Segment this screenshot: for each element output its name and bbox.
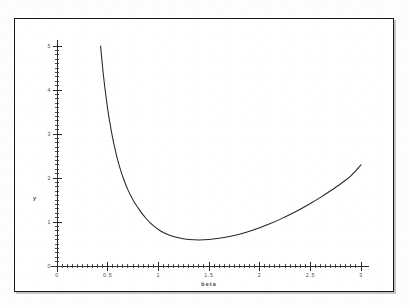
x-axis-ticks bbox=[57, 262, 361, 271]
plot-area: 00.511.522.53 012345 beta y bbox=[15, 19, 395, 293]
x-tick-label: 1.5 bbox=[204, 272, 213, 278]
y-tick-label: 5 bbox=[37, 43, 51, 49]
figure-frame: 00.511.522.53 012345 beta y bbox=[14, 18, 394, 292]
x-tick-label: 1 bbox=[157, 272, 161, 278]
data-curve bbox=[101, 46, 361, 240]
plot-canvas bbox=[15, 19, 395, 293]
y-tick-label: 4 bbox=[37, 87, 51, 93]
x-axis-title: beta bbox=[201, 281, 216, 287]
x-tick-label: 2.5 bbox=[306, 272, 315, 278]
x-tick-label: 3 bbox=[359, 272, 363, 278]
y-tick-label: 1 bbox=[37, 219, 51, 225]
y-tick-label: 0 bbox=[37, 263, 51, 269]
y-tick-label: 2 bbox=[37, 175, 51, 181]
x-tick-label: 2 bbox=[258, 272, 262, 278]
x-tick-label: 0.5 bbox=[103, 272, 112, 278]
y-tick-label: 3 bbox=[37, 131, 51, 137]
axes-group bbox=[51, 40, 369, 272]
y-axis-title: y bbox=[33, 195, 37, 201]
x-tick-label: 0 bbox=[55, 272, 59, 278]
figure-page: 00.511.522.53 012345 beta y bbox=[0, 0, 410, 308]
